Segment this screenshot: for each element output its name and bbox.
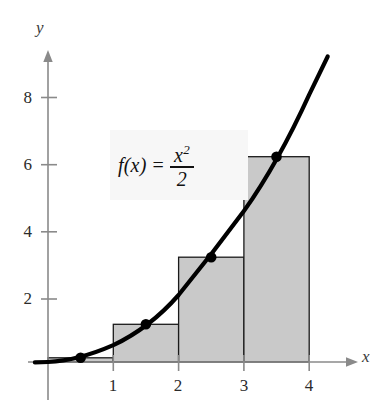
y-axis-arrowhead (43, 50, 52, 62)
point-x2.5 (206, 252, 217, 263)
function-plot (0, 0, 383, 410)
y-tick-label-2: 2 (14, 289, 32, 309)
y-axis-ticks (41, 98, 57, 300)
formula-denominator: 2 (173, 168, 191, 189)
x-axis-arrowhead (346, 357, 358, 366)
y-tick-label-8: 8 (14, 88, 32, 108)
formula-fraction: x2 2 (170, 143, 194, 189)
y-tick-label-4: 4 (14, 222, 32, 242)
y-axis-label: y (36, 18, 44, 38)
point-x0.5 (75, 353, 86, 364)
bar-3 (179, 257, 244, 362)
formula-equals-sign: = (153, 154, 164, 177)
formula-lhs: f(x) (118, 154, 147, 177)
x-tick-label-3: 3 (233, 376, 255, 396)
function-formula-annotation: f(x) = x2 2 (118, 143, 194, 189)
y-tick-label-6: 6 (14, 155, 32, 175)
formula-numerator-exponent: 2 (183, 142, 190, 157)
x-axis-label: x (362, 347, 370, 367)
bar-4 (244, 157, 309, 362)
bar-2 (113, 324, 178, 362)
point-x1.5 (141, 319, 152, 330)
formula-numerator-base: x (174, 144, 183, 166)
x-tick-label-1: 1 (102, 376, 124, 396)
formula-numerator: x2 (170, 143, 194, 166)
x-tick-label-2: 2 (167, 376, 189, 396)
x-tick-label-4: 4 (298, 376, 320, 396)
midpoint-rule-figure: y x 8 6 4 2 1 2 3 4 f(x) = x2 2 (0, 0, 383, 410)
point-x3.5 (271, 151, 282, 162)
